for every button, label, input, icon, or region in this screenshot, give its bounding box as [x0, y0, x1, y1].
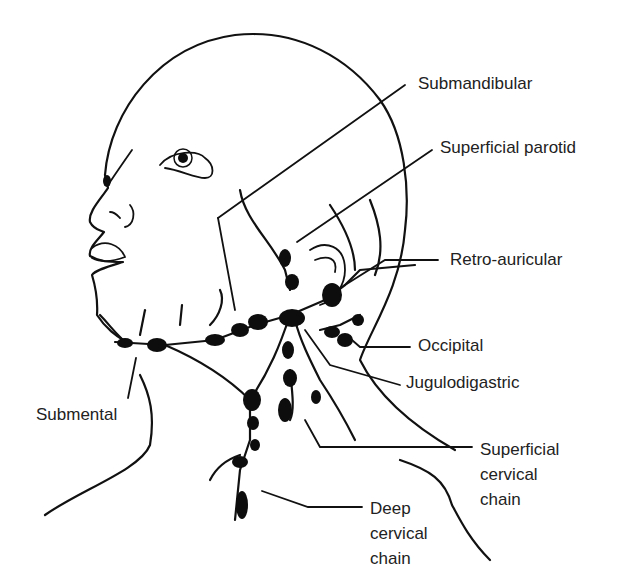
submental-pointer: [128, 358, 136, 398]
head-outline: [105, 34, 407, 230]
submandibular-pointer: [218, 85, 405, 218]
eyebrow: [110, 150, 132, 182]
front-neck: [45, 375, 152, 515]
label-submental: Submental: [36, 404, 117, 425]
label-jugulodigastric: Jugulodigastric: [406, 372, 519, 393]
superficial-cervical-pointer: [305, 420, 472, 447]
superficial-parotid-pointer: [297, 150, 432, 242]
label-superficial-cervical-chain: Superficial cervical chain: [480, 437, 559, 512]
label-deep-cervical-chain: Deep cervical chain: [370, 496, 428, 571]
nostril: [110, 212, 120, 218]
label-submandibular: Submandibular: [418, 73, 532, 94]
label-superficial-parotid: Superficial parotid: [440, 137, 576, 158]
lymph-network: [115, 190, 415, 520]
label-occipital: Occipital: [418, 335, 483, 356]
occipital-pointer: [352, 340, 410, 347]
lymph-node-diagram: Submandibular Superficial parotid Retro-…: [0, 0, 619, 576]
label-retro-auricular: Retro-auricular: [450, 249, 562, 270]
deep-cervical-pointer: [262, 491, 362, 507]
